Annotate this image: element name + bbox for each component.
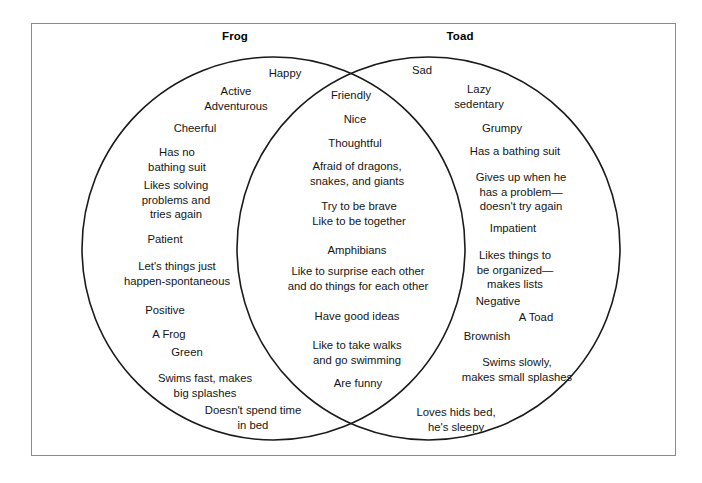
toad-entry-brownish: Brownish xyxy=(432,329,542,344)
frog-entry-active-adventurous: Active Adventurous xyxy=(176,84,296,113)
frog-entry-has-no-bathing-suit: Has no bathing suit xyxy=(117,145,237,174)
shared-entry-friendly: Friendly xyxy=(303,88,399,103)
toad-entry-grumpy: Grumpy xyxy=(450,121,554,136)
frog-entry-doesnt-spend-time-in-bed: Doesn't spend time in bed xyxy=(168,403,338,432)
toad-entry-a-toad: A Toad xyxy=(492,310,580,325)
toad-entry-likes-things-organized: Likes things to be organized— makes list… xyxy=(450,248,580,292)
toad-circle-title: Toad xyxy=(430,30,490,42)
frog-entry-swims-fast: Swims fast, makes big splashes xyxy=(126,371,284,400)
shared-entry-amphibians: Amphibians xyxy=(299,243,415,258)
toad-entry-loves-hids-bed: Loves hids bed, he's sleepy xyxy=(382,405,530,434)
shared-entry-have-good-ideas: Have good ideas xyxy=(297,309,417,324)
frog-entry-cheerful: Cheerful xyxy=(140,121,250,136)
shared-entry-like-to-take-walks: Like to take walks and go swimming xyxy=(286,338,428,367)
shared-entry-thoughtful: Thoughtful xyxy=(302,136,408,151)
shared-entry-try-to-be-brave: Try to be brave Like to be together xyxy=(291,199,427,228)
toad-entry-swims-slowly: Swims slowly, makes small splashes xyxy=(424,355,610,384)
frog-entry-lets-things-just-happen: Let's things just happen-spontaneous xyxy=(94,259,260,288)
toad-entry-negative: Negative xyxy=(448,294,548,309)
shared-entry-are-funny: Are funny xyxy=(302,376,414,391)
toad-entry-has-a-bathing-suit: Has a bathing suit xyxy=(444,144,586,159)
frog-entry-a-frog: A Frog xyxy=(117,327,221,342)
venn-diagram-page: Frog Toad Happy Active Adventurous Cheer… xyxy=(0,0,702,483)
frog-entry-likes-solving-problems: Likes solving problems and tries again xyxy=(113,178,239,222)
shared-entry-afraid-of-dragons: Afraid of dragons, snakes, and giants xyxy=(287,159,427,188)
frog-entry-green: Green xyxy=(135,345,239,360)
toad-entry-gives-up-when-he-has-a-problem: Gives up when he has a problem— doesn't … xyxy=(453,170,589,214)
frog-entry-happy: Happy xyxy=(250,66,320,81)
shared-entry-like-to-surprise-each-other: Like to surprise each other and do thing… xyxy=(264,264,452,293)
frog-entry-patient: Patient xyxy=(110,232,220,247)
toad-entry-lazy-sedentary: Lazy sedentary xyxy=(432,82,526,111)
toad-entry-sad: Sad xyxy=(392,63,452,78)
frog-entry-positive: Positive xyxy=(113,303,217,318)
toad-entry-impatient: Impatient xyxy=(458,221,568,236)
frog-circle-title: Frog xyxy=(205,30,265,42)
shared-entry-nice: Nice xyxy=(307,112,403,127)
